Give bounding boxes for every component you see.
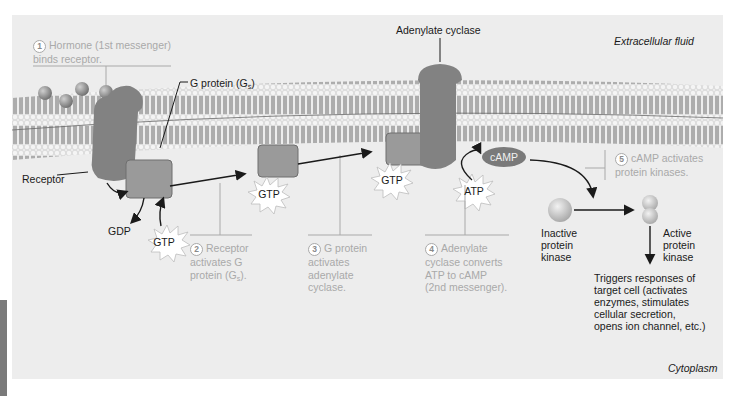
adenylate-cyclase-label: Adenylate cyclase xyxy=(396,24,481,36)
arrow-g-protein-to-cyclase xyxy=(298,152,370,164)
response-label: Triggers responses oftarget cell (activa… xyxy=(594,272,706,332)
gtp-label-3: GTP xyxy=(378,174,406,186)
active-kinase-icon xyxy=(642,195,658,224)
gtp-label-2: GTP xyxy=(255,188,283,200)
receptor-label: Receptor xyxy=(22,173,65,185)
camp-label: cAMP xyxy=(484,151,524,163)
inactive-kinase-label: Inactiveproteinkinase xyxy=(541,227,577,263)
step-2-caption: 2Receptor activates G protein (Gs). xyxy=(190,242,249,285)
gtp-label-1: GTP xyxy=(150,236,178,248)
step-5-caption: 5cAMP activates protein kinases. xyxy=(615,152,703,179)
g-protein-moving xyxy=(258,145,298,177)
gdp-label: GDP xyxy=(108,225,131,237)
g-protein-inactive xyxy=(126,160,172,198)
arrow-gdp-release xyxy=(132,198,144,222)
arrow-gtp-binding xyxy=(160,199,163,226)
adenylate-cyclase-protein xyxy=(418,64,462,169)
arrow-g-protein-moves xyxy=(170,174,244,186)
step-4-caption: 4Adenylate cyclase converts ATP to cAMP … xyxy=(425,242,507,294)
active-kinase-label: Activeproteinkinase xyxy=(663,227,695,263)
arrow-camp-to-kinase xyxy=(530,160,593,196)
g-protein-label: G protein (Gs) xyxy=(190,77,255,93)
cytoplasm-label: Cytoplasm xyxy=(668,362,718,374)
step-3-caption: 3G protein activates adenylate cyclase. xyxy=(308,242,367,294)
atp-label: ATP xyxy=(460,185,488,197)
arrow-receptor-to-gprotein xyxy=(107,183,126,193)
step-1-caption: 1Hormone (1st messenger) binds receptor. xyxy=(33,39,171,66)
extracellular-label: Extracellular fluid xyxy=(614,35,694,47)
inactive-kinase-icon xyxy=(548,198,572,222)
